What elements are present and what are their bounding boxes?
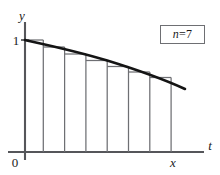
legend-box: n=7 [160,25,205,44]
x-axis-label: t [208,138,212,153]
rectangle-grid-lines [43,40,171,152]
legend-value: 7 [186,27,192,41]
y-axis-label: y [17,8,25,23]
x-endpoint-label: x [169,155,176,170]
riemann-sum-figure: y 1 0 x t n=7 [0,0,220,175]
legend-equals: = [179,27,186,41]
legend-label: n=7 [173,27,192,42]
origin-label: 0 [12,155,19,170]
y-tick-label-one: 1 [13,33,20,48]
